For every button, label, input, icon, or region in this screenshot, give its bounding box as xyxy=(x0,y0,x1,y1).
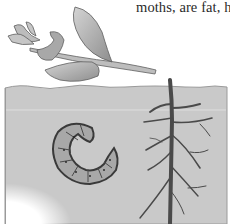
cutworm-illustration xyxy=(0,0,230,224)
plant-sprig-icon xyxy=(8,7,156,81)
